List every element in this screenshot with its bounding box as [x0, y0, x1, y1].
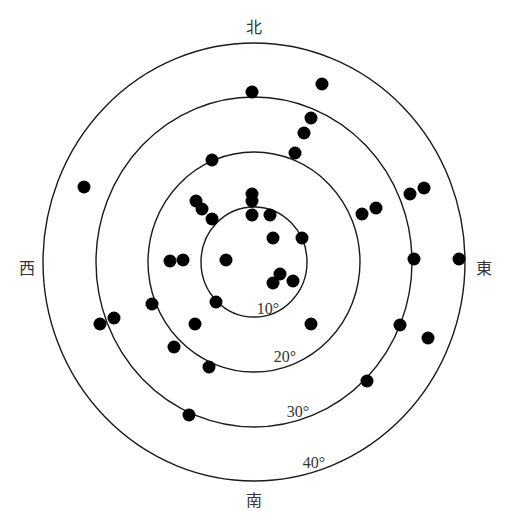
data-point — [356, 208, 369, 221]
data-point — [370, 202, 383, 215]
data-point — [94, 318, 107, 331]
east-label: 東 — [476, 259, 492, 278]
data-point — [108, 312, 121, 325]
ring-label: 30° — [287, 403, 309, 420]
data-point — [177, 254, 190, 267]
data-point — [146, 298, 159, 311]
elevation-rings — [43, 43, 465, 481]
data-point — [287, 275, 300, 288]
west-label: 西 — [19, 259, 35, 278]
data-point — [289, 147, 302, 160]
data-point — [418, 182, 431, 195]
ring-label: 10° — [257, 300, 279, 317]
data-point — [404, 188, 417, 201]
data-point — [246, 86, 259, 99]
data-point — [408, 253, 421, 266]
data-point — [189, 318, 202, 331]
ring-label: 40° — [303, 454, 325, 471]
data-point — [296, 232, 309, 245]
data-point — [422, 332, 435, 345]
data-point — [220, 254, 233, 267]
south-label: 南 — [246, 491, 262, 510]
data-point — [206, 154, 219, 167]
elevation-ring — [43, 43, 465, 481]
data-point — [305, 112, 318, 125]
data-point — [203, 361, 216, 374]
polar-sky-diagram: 10°20°30°40° 北 南 西 東 — [0, 0, 507, 524]
data-point — [168, 341, 181, 354]
north-label: 北 — [246, 18, 262, 37]
data-point — [316, 78, 329, 91]
data-point — [264, 209, 277, 222]
data-point — [453, 253, 466, 266]
data-point — [361, 375, 374, 388]
data-point — [394, 319, 407, 332]
data-point — [196, 203, 209, 216]
data-point — [206, 213, 219, 226]
data-point — [210, 296, 223, 309]
data-point — [78, 181, 91, 194]
ring-label: 20° — [274, 348, 296, 365]
data-point — [267, 277, 280, 290]
data-point — [305, 318, 318, 331]
data-point — [246, 209, 259, 222]
data-point — [267, 232, 280, 245]
data-point — [246, 195, 259, 208]
data-point — [183, 409, 196, 422]
data-point — [164, 255, 177, 268]
data-point — [298, 127, 311, 140]
